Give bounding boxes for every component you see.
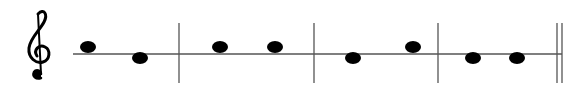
note-head <box>80 41 96 53</box>
note-head <box>405 41 421 53</box>
note-head <box>132 52 148 64</box>
music-staff <box>0 0 586 88</box>
note-head <box>465 52 481 64</box>
note-head <box>345 52 361 64</box>
note-head <box>267 41 283 53</box>
treble-clef-icon <box>29 12 49 79</box>
note-head <box>212 41 228 53</box>
note-head <box>509 52 525 64</box>
